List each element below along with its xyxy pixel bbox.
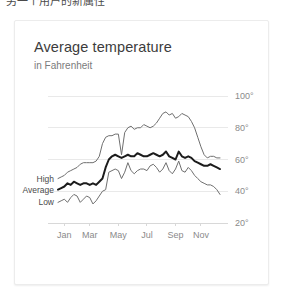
series-inline-labels: HighAverageLow [22,174,54,208]
y-axis-tick-label: 100° [235,91,254,101]
y-axis-tick-label: 60° [235,155,249,165]
gridlines-group [48,96,228,223]
chart-plot-area: 20°40°60°80°100° JanMarMayJulSepNov High… [15,21,268,284]
line-chart-svg: 20°40°60°80°100° JanMarMayJulSepNov High… [15,21,268,284]
series-label-high: High [37,174,55,184]
x-axis-tick-label: Mar [82,230,98,240]
x-axis-tick-label: Jan [57,230,72,240]
y-axis-tick-label: 20° [235,218,249,228]
y-axis-tick-label: 40° [235,186,249,196]
x-axis-tick-labels: JanMarMayJulSepNov [57,230,209,240]
y-axis-tick-labels: 20°40°60°80°100° [235,91,254,228]
series-label-low: Low [38,197,54,207]
series-line-high [58,112,220,179]
x-axis-tick-label: May [110,230,128,240]
cropped-text: 另一个用户的新属性 [6,0,105,8]
data-series-group [58,112,220,204]
series-line-low [58,161,220,204]
x-axis-tick-label: Nov [193,230,210,240]
x-axis-tick-label: Sep [168,230,184,240]
series-line-average [58,152,220,190]
cropped-page-text-strip: 另一个用户的新属性 [0,0,285,13]
y-axis-tick-label: 80° [235,123,249,133]
series-label-average: Average [22,185,54,195]
temperature-chart-card: Average temperature in Fahrenheit 20°40°… [14,20,269,285]
x-axis-tick-label: Jul [141,230,153,240]
